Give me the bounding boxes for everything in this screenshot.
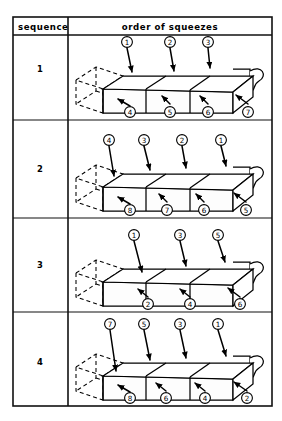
- callout-bot-2-4: 5: [244, 206, 249, 215]
- callout-bot-2-1: 8: [128, 206, 133, 215]
- callout-bot-3-2: 4: [188, 300, 193, 309]
- column-header-sequence: sequence: [18, 22, 68, 32]
- callout-bot-1-5: 5: [168, 108, 173, 117]
- callout-bot-4-3: 4: [203, 394, 208, 403]
- callout-bot-1-7: 7: [246, 108, 251, 117]
- callout-bot-1-4: 4: [128, 108, 133, 117]
- callout-top-4-4: 1: [216, 320, 221, 329]
- callout-top-1-1: 1: [125, 38, 130, 47]
- callout-top-3-1: 1: [132, 231, 137, 240]
- callout-top-2-1: 4: [107, 136, 112, 145]
- callout-bot-1-6: 6: [206, 108, 211, 117]
- sequence-number-4: 4: [37, 357, 43, 367]
- squeeze-order-figure: sequence order of squeezes 1: [0, 0, 282, 421]
- callout-bot-4-1: 8: [128, 394, 133, 403]
- callout-bot-2-3: 6: [202, 206, 207, 215]
- callout-bot-4-4: 2: [245, 394, 250, 403]
- callout-bot-4-2: 6: [164, 394, 169, 403]
- callout-top-2-4: 1: [219, 136, 224, 145]
- figure-root: sequence order of squeezes 1: [0, 0, 282, 421]
- callout-top-1-3: 3: [206, 38, 211, 47]
- callout-top-2-2: 3: [142, 136, 147, 145]
- callout-bot-2-2: 7: [165, 206, 170, 215]
- callout-top-3-2: 3: [178, 231, 183, 240]
- column-header-order: order of squeezes: [122, 22, 218, 32]
- sequence-number-2: 2: [37, 164, 43, 174]
- callout-top-2-3: 2: [180, 136, 185, 145]
- callout-bot-3-3: 6: [238, 300, 243, 309]
- sequence-number-3: 3: [37, 260, 43, 270]
- callout-top-3-3: 5: [216, 231, 221, 240]
- callout-top-4-3: 3: [178, 320, 183, 329]
- callout-top-4-2: 5: [142, 320, 147, 329]
- sequence-number-1: 1: [37, 64, 43, 74]
- callout-bot-3-1: 2: [146, 300, 151, 309]
- tube-body-2: [103, 174, 253, 211]
- tube-body-1: [103, 76, 253, 113]
- callout-top-4-1: 7: [108, 320, 113, 329]
- tube-body-3: [103, 269, 253, 306]
- callout-top-1-2: 2: [168, 38, 173, 47]
